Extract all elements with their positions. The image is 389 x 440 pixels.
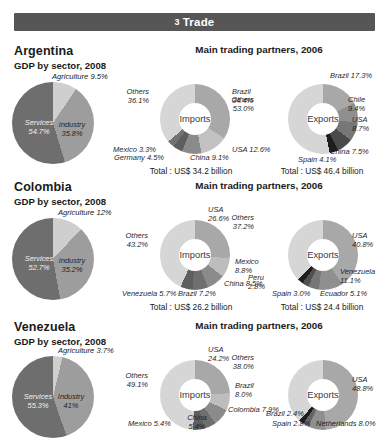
- pie-label-services: Services54.7%: [18, 118, 60, 136]
- partners-section-title: Main trading partners, 2006: [134, 320, 384, 331]
- exports-donut-center-label: Exports: [288, 84, 358, 154]
- exports-label-peru: Peru2.8%: [248, 274, 265, 291]
- imports-donut-center-label: Imports: [160, 220, 230, 290]
- exports-donut-chart: Exports: [288, 220, 358, 290]
- pie-label-industry: Industry41%: [54, 392, 88, 410]
- trade-page: 3Trade Argentina GDP by sector, 2008 Mai…: [0, 0, 389, 440]
- gdp-pie-chart: Services52.7% Industry35.2%: [12, 218, 94, 300]
- imports-label-usa: USA 12.6%: [232, 146, 271, 155]
- exports-donut-center-label: Exports: [288, 220, 358, 290]
- imports-label-others: Others36.1%: [113, 88, 149, 105]
- gdp-pie-chart: Services54.7% Industry35.8%: [12, 82, 94, 164]
- imports-label-china: China 9.1%: [190, 154, 229, 163]
- pie-label-industry: Industry35.2%: [55, 256, 89, 274]
- exports-label-spain: Spain 3.0%: [272, 290, 310, 299]
- imports-label-others: Others49.1%: [112, 372, 148, 389]
- partners-section-title: Main trading partners, 2006: [134, 44, 384, 55]
- imports-label-venezuela: Venezuela 5.7%: [122, 290, 176, 299]
- imports-total: Total : US$ 26.2 billion: [136, 302, 246, 312]
- exports-donut-center-label: Exports: [288, 360, 358, 430]
- chapter-header-bar: 3Trade: [14, 13, 375, 31]
- imports-label-germany: Germany 4.5%: [104, 154, 164, 163]
- country-name: Colombia: [14, 180, 72, 194]
- exports-donut-chart: Exports: [288, 360, 358, 430]
- imports-donut-center-label: Imports: [160, 360, 230, 430]
- imports-donut-chart: Imports: [160, 220, 230, 290]
- exports-total: Total : US$ 24.4 billion: [262, 302, 382, 312]
- pie-label-agriculture: Agriculture 12%: [58, 208, 112, 217]
- chapter-title-text: Trade: [183, 16, 215, 28]
- partners-section-title: Main trading partners, 2006: [134, 180, 384, 191]
- imports-total: Total : US$ 34.2 billion: [136, 166, 246, 176]
- imports-label-others: Others43.2%: [112, 232, 148, 249]
- exports-label-spain: Spain 4.1%: [298, 156, 336, 165]
- chapter-number: 3: [175, 17, 180, 27]
- country-name: Venezuela: [14, 320, 75, 334]
- gdp-section-title: GDP by sector, 2008: [14, 60, 106, 71]
- imports-label-brazil: Brazil8.0%: [235, 382, 254, 399]
- imports-donut-chart: Imports: [160, 360, 230, 430]
- exports-donut-chart: Exports: [288, 84, 358, 154]
- pie-label-agriculture: Agriculture 3.7%: [58, 346, 114, 355]
- imports-donut-chart: Imports: [160, 84, 230, 154]
- imports-label-brazil: Brazil 7.2%: [178, 290, 216, 299]
- imports-donut-center-label: Imports: [160, 84, 230, 154]
- pie-label-industry: Industry35.8%: [55, 120, 89, 138]
- chapter-title: 3Trade: [175, 16, 215, 28]
- gdp-pie-shape: Services55.3% Industry41%: [12, 356, 94, 438]
- exports-total: Total : US$ 46.4 billion: [262, 166, 382, 176]
- gdp-pie-shape: Services54.7% Industry35.8%: [12, 82, 94, 164]
- exports-label-ecuador: Ecuador 5.1%: [320, 290, 367, 299]
- gdp-pie-shape: Services52.7% Industry35.2%: [12, 218, 94, 300]
- gdp-pie-chart: Services55.3% Industry41%: [12, 356, 94, 438]
- exports-label-brazil: Brazil 17.3%: [330, 72, 372, 81]
- country-name: Argentina: [14, 44, 73, 58]
- gdp-section-title: GDP by sector, 2008: [14, 196, 106, 207]
- pie-label-agriculture: Agriculture 9.5%: [52, 72, 108, 81]
